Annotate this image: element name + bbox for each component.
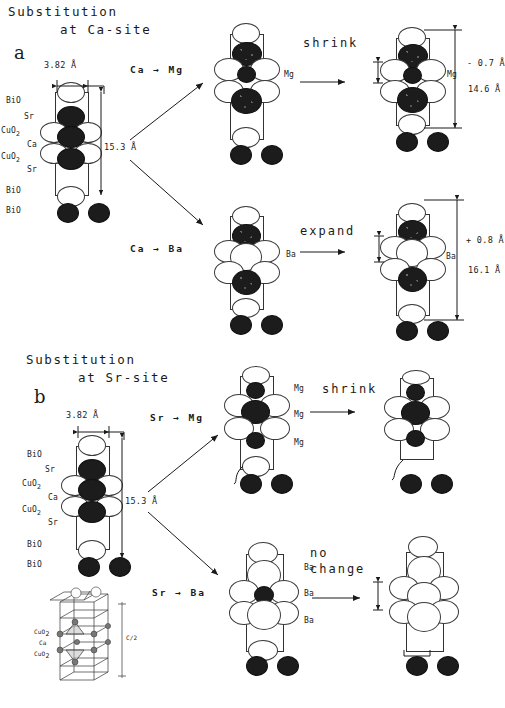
atom-sr-bottom: [232, 270, 261, 295]
result-structure-ca-ba: Ba + 0.8 Å 16.1 Å: [372, 190, 492, 340]
parent-a-height-dim: 15.3 Å: [104, 142, 137, 152]
dopant-label-ba-2: Ba: [304, 589, 314, 598]
dopant-label-ba-result: Ba: [446, 252, 456, 261]
verb-label-no: no: [310, 546, 328, 560]
panel-b-title-line2: at Sr-site: [78, 370, 169, 385]
layer-label-cuo2-top: CuO2: [1, 126, 20, 138]
layer-label-sr-bottom: Sr: [48, 518, 58, 527]
atom-bio-extra-right: [427, 321, 449, 341]
atom-bio-extra-left: [230, 145, 252, 165]
intermediate-structure-sr-mg: Mg Mg Mg: [222, 368, 332, 508]
dopant-label-mg-2: Mg: [294, 410, 304, 419]
dopant-label-mg-3: Mg: [294, 438, 304, 447]
atom-bio-extra-left: [396, 132, 418, 152]
verb-label-shrink-2: shrink: [322, 382, 377, 396]
atom-bio-extra-left: [240, 474, 262, 494]
intermediate-structure-ca-mg: Mg: [206, 14, 316, 184]
panel-b-letter: b: [34, 386, 46, 407]
inset-label-cuo2-bottom: CuO2: [34, 650, 50, 660]
atom-bio-extra-left: [57, 203, 79, 223]
atom-bio-extra-left: [230, 315, 252, 335]
result-structure-ca-mg: Mg - 0.7 Å 14.6 Å: [372, 14, 492, 184]
intermediate-structure-ca-ba: Ba: [206, 198, 316, 343]
atom-cuo2-bottom-right: [260, 417, 290, 440]
verb-label-shrink-1: shrink: [303, 36, 358, 50]
result-structure-sr-mg: [382, 372, 492, 512]
inset-label-ca: Ca: [39, 639, 47, 646]
atom-bio-extra-right: [277, 656, 299, 676]
atom-bio-top: [402, 370, 430, 385]
layer-label-cuo2-bottom: CuO2: [1, 152, 20, 164]
verb-label-change: change: [310, 562, 365, 576]
delta-label-1: - 0.7 Å: [467, 58, 505, 68]
layer-label-sr-top: Sr: [45, 465, 55, 474]
layer-label-bio-extra: BiO: [6, 206, 21, 215]
atom-bio-extra-left: [406, 656, 428, 676]
atom-dopant-mg-bottom: [246, 432, 265, 449]
dopant-label-ba: Ba: [286, 250, 296, 259]
atom-sr-bottom: [398, 267, 427, 292]
atom-bio-top: [232, 23, 260, 44]
atom-bio-extra-right: [427, 132, 449, 152]
atom-bio-extra-right: [109, 557, 131, 577]
layer-label-cuo2-bottom: CuO2: [22, 505, 41, 517]
layer-label-bio-bottom: BiO: [27, 540, 42, 549]
layer-label-sr-top: Sr: [24, 112, 34, 121]
atom-dopant-ba-bottom: [247, 600, 281, 630]
atom-bio-extra-right: [88, 203, 110, 223]
parent-b-height-dim: 15.3 Å: [125, 496, 158, 506]
atom-bio-extra-left: [400, 474, 422, 494]
verb-label-expand: expand: [300, 224, 355, 238]
layer-label-ca: Ca: [48, 493, 58, 502]
panel-a-title-line1: Substitution: [8, 4, 118, 19]
atom-dopant-mg: [403, 67, 422, 84]
dopant-label-mg-1: Mg: [294, 384, 304, 393]
parent-structure-a: 3.82 Å BiO Sr CuO2 Ca CuO2 Sr BiO BiO 15…: [0, 60, 140, 210]
parent-a-width-dim: 3.82 Å: [44, 60, 77, 70]
result-dim-label-1: 14.6 Å: [468, 84, 501, 94]
parent-structure-b: 3.82 Å BiO Sr CuO2 Ca CuO2 Sr BiO BiO 15…: [14, 410, 164, 570]
atom-sr-bottom: [57, 148, 85, 170]
reaction-label-ca-to-mg: Ca → Mg: [130, 64, 184, 75]
atom-bio-extra-left: [78, 557, 100, 577]
reaction-label-sr-to-ba: Sr → Ba: [152, 587, 206, 598]
panel-b-title-line1: Substitution: [26, 352, 136, 367]
layer-label-ca: Ca: [27, 140, 37, 149]
reaction-label-ca-to-ba: Ca → Ba: [130, 243, 184, 254]
atom-bio-top: [232, 206, 260, 226]
atom-dopant-ba-bottom: [407, 602, 441, 632]
dopant-label-mg: Mg: [284, 70, 294, 79]
atom-sr-bottom: [78, 501, 106, 523]
layer-label-cuo2-top: CuO2: [22, 479, 41, 491]
parent-b-width-dim: 3.82 Å: [66, 410, 99, 420]
atom-bio-top: [57, 82, 85, 103]
atom-bio-extra-right: [261, 145, 283, 165]
dopant-label-mg-result: Mg: [447, 70, 457, 79]
atom-bio-top: [408, 536, 438, 558]
reaction-label-sr-to-mg: Sr → Mg: [150, 412, 204, 423]
crystal-unit-cell-inset: CuO2 Ca CuO2 C/2: [32, 588, 152, 688]
layer-label-bio-top: BiO: [27, 450, 42, 459]
result-dim-label-2: 16.1 Å: [468, 265, 501, 275]
atom-sr-bottom: [397, 87, 428, 113]
layer-label-bio-bottom: BiO: [6, 186, 21, 195]
atom-dopant-mg-bottom: [406, 430, 425, 447]
layer-label-bio-extra: BiO: [27, 560, 42, 569]
atom-bio-extra-right: [271, 474, 293, 494]
inset-label-cuo2-top: CuO2: [34, 628, 50, 638]
atom-sr-bottom: [231, 88, 262, 114]
layer-label-bio-top: BiO: [6, 96, 21, 105]
atom-bio-extra-left: [396, 321, 418, 341]
result-structure-sr-ba: [388, 532, 498, 677]
panel-a-title-line2: at Ca-site: [60, 22, 151, 37]
atom-bio-extra-left: [246, 656, 268, 676]
atom-bio-top: [78, 435, 106, 456]
inset-axis-label: C/2: [126, 634, 137, 641]
atom-bio-extra-right: [431, 474, 453, 494]
dopant-label-ba-3: Ba: [304, 616, 314, 625]
atom-bio-extra-right: [261, 315, 283, 335]
atom-bio-extra-right: [437, 656, 459, 676]
atom-dopant-mg: [237, 66, 256, 83]
delta-label-2: + 0.8 Å: [466, 235, 504, 245]
layer-label-sr-bottom: Sr: [27, 165, 37, 174]
